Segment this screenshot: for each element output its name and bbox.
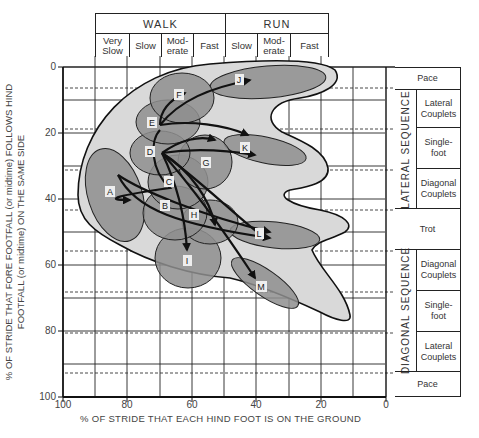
svg-text:M: M (257, 282, 265, 292)
y-tick-60: 60 (34, 259, 56, 270)
row-trot: Trot (395, 208, 460, 249)
y-tick-20: 20 (34, 127, 56, 138)
y-tick-40: 40 (34, 193, 56, 204)
label-e: E (147, 117, 157, 128)
label-k: K (240, 142, 250, 153)
row-pace-bottom: Pace (395, 371, 460, 396)
y-axis-label: % OF STRIDE THAT FORE FOOTFALL (or midti… (3, 67, 27, 397)
x-tick-60: 60 (177, 399, 207, 410)
svg-text:E: E (149, 118, 155, 128)
label-a: A (105, 186, 115, 197)
svg-text:A: A (107, 187, 113, 197)
label-b: B (160, 200, 170, 211)
x-tick-40: 40 (241, 399, 271, 410)
y-axis-label-line2: FOOTFALL (or midtime) ON THE SAME SIDE (15, 67, 27, 397)
label-i: I (183, 255, 192, 266)
label-c: C (164, 176, 174, 187)
svg-text:J: J (237, 75, 242, 85)
row-lateral-couplets-2: Lateral Couplets (417, 331, 460, 371)
svg-text:H: H (191, 210, 198, 220)
row-diagonal-couplets-1: Diagonal Couplets (417, 168, 460, 208)
row-pace-top: Pace (395, 67, 460, 89)
svg-text:K: K (242, 143, 248, 153)
label-h: H (189, 209, 199, 220)
gait-sequence-panel: Pace LATERAL SEQUENCE Lateral Couplets S… (395, 67, 461, 397)
label-m: M (256, 281, 267, 292)
label-l: L (255, 228, 264, 239)
svg-text:I: I (186, 256, 189, 266)
label-j: J (235, 74, 244, 85)
x-tick-100: 100 (48, 399, 78, 410)
svg-text:L: L (256, 229, 261, 239)
svg-text:D: D (147, 147, 154, 157)
x-tick-20: 20 (306, 399, 336, 410)
x-tick-80: 80 (112, 399, 142, 410)
x-tick-0: 0 (371, 399, 401, 410)
label-g: G (201, 157, 211, 168)
lateral-sequence-label: LATERAL SEQUENCE (395, 89, 417, 208)
row-diagonal-couplets-2: Diagonal Couplets (417, 249, 460, 290)
diagonal-sequence-label: DIAGONAL SEQUENCE (395, 249, 417, 371)
x-axis-label: % OF STRIDE THAT EACH HIND FOOT IS ON TH… (80, 413, 361, 424)
svg-text:G: G (202, 158, 209, 168)
row-singlefoot-2: Single- foot (417, 290, 460, 331)
label-f: F (174, 89, 184, 100)
svg-text:F: F (176, 90, 182, 100)
svg-text:C: C (166, 177, 173, 187)
row-lateral-couplets-1: Lateral Couplets (417, 89, 460, 127)
label-d: D (145, 146, 155, 157)
y-tick-80: 80 (34, 325, 56, 336)
y-axis-label-line1: % OF STRIDE THAT FORE FOOTFALL (or midti… (3, 67, 15, 397)
svg-text:B: B (162, 201, 168, 211)
y-tick-0: 0 (34, 61, 56, 72)
row-singlefoot-1: Single- foot (417, 127, 460, 168)
